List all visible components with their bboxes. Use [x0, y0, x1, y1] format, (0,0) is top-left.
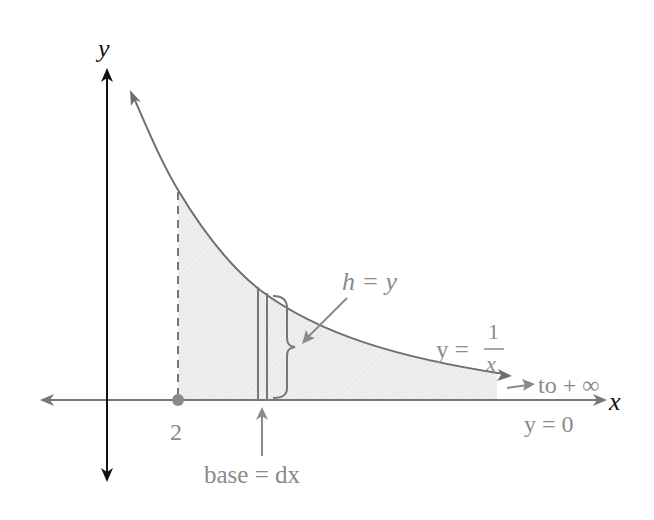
equation-lhs: y = [436, 336, 469, 363]
asymptote-label: y = 0 [524, 411, 574, 437]
start-tick-label: 2 [170, 419, 182, 445]
start-point-dot [172, 394, 184, 406]
equation-numerator: 1 [488, 319, 499, 344]
shaded-area [178, 190, 497, 400]
curve-right-arrow-icon [497, 369, 512, 381]
equation-denominator: x [485, 351, 496, 376]
to-infinity-label: to + ∞ [538, 372, 599, 398]
height-label: h = y [342, 267, 398, 296]
base-pointer-arrow [256, 407, 268, 456]
y-axis [101, 68, 113, 482]
x-axis-label: x [608, 387, 621, 416]
base-label: base = dx [204, 461, 301, 488]
diagram-canvas: y x 2 h = y base = dx to + ∞ y = 0 y = 1… [0, 0, 654, 520]
y-axis-label: y [95, 34, 110, 63]
infinity-pointer-arrow [507, 379, 535, 391]
